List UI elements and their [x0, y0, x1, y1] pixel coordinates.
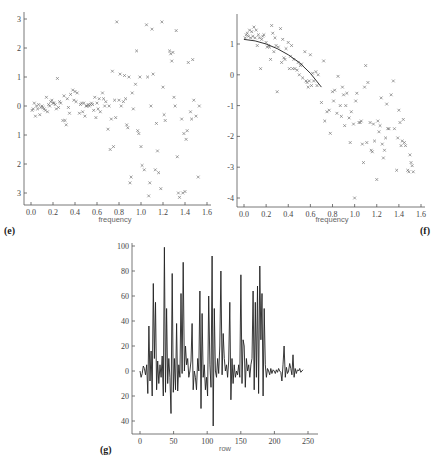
scatter-point — [274, 36, 277, 39]
scatter-point — [390, 93, 393, 96]
x-tick-label: 200 — [268, 437, 280, 446]
scatter-point — [103, 105, 106, 108]
axes-e: 32101230.00.20.40.60.81.01.21.41.6 — [17, 12, 212, 217]
scatter-point — [298, 73, 301, 76]
x-tick-label: 1.4 — [180, 208, 190, 217]
scatter-point — [317, 73, 320, 76]
scatter-point — [99, 110, 102, 113]
scatter-point — [336, 112, 339, 115]
scatter-point — [373, 140, 376, 143]
scatter-point — [384, 137, 387, 140]
scatter-point — [355, 92, 358, 95]
scatter-point — [104, 100, 107, 103]
scatter-point — [156, 150, 159, 153]
scatter-point — [263, 33, 266, 36]
y-tick-label: 20 — [121, 392, 129, 401]
scatter-point — [81, 110, 84, 113]
scatter-point — [323, 120, 326, 123]
scatter-point — [122, 100, 125, 103]
x-tick-label: 1.2 — [372, 210, 382, 219]
scatter-point — [343, 124, 346, 127]
scatter-point — [191, 58, 194, 61]
scatter-point — [363, 86, 366, 89]
scatter-point — [185, 138, 188, 141]
scatter-point — [126, 126, 129, 129]
scatter-point — [114, 116, 117, 119]
scatter-point — [354, 100, 357, 103]
scatter-point — [379, 124, 382, 127]
scatter-point — [301, 76, 304, 79]
y-tick-label: -1 — [227, 102, 234, 111]
scatter-point — [383, 149, 386, 152]
scatter-point — [332, 100, 335, 103]
scatter-point — [124, 97, 127, 100]
scatter-point — [353, 197, 356, 200]
scatter-point — [66, 97, 69, 100]
scatter-point — [136, 129, 139, 132]
scatter-panel-e: 32101230.00.20.40.60.81.01.21.41.6 frequ… — [4, 12, 212, 237]
scatter-point — [315, 70, 318, 73]
scatter-point — [270, 24, 273, 27]
scatter-point — [198, 105, 201, 108]
axes-f: 10-1-2-3-40.00.20.40.60.81.01.21.41.6 — [227, 14, 426, 219]
scatter-point — [397, 109, 400, 112]
scatter-point — [180, 118, 183, 121]
panel-label-g: (g) — [100, 444, 112, 456]
scatter-point — [139, 76, 142, 79]
scatter-point — [147, 195, 150, 198]
scatter-point — [101, 92, 104, 95]
scatter-point — [279, 27, 282, 30]
scatter-point — [381, 143, 384, 146]
scatter-point — [102, 97, 105, 100]
panel-label-e: (e) — [4, 225, 15, 237]
scatter-point — [33, 102, 36, 105]
scatter-point — [339, 104, 342, 107]
x-tick-label: 1.6 — [416, 210, 426, 219]
y-tick-label: 2 — [17, 44, 21, 53]
scatter-point — [95, 116, 98, 119]
scatter-point — [341, 86, 344, 89]
y-tick-label: 80 — [121, 267, 129, 276]
scatter-point — [151, 28, 154, 31]
scatter-point — [303, 50, 306, 53]
scatter-point — [320, 101, 323, 104]
scatter-point — [412, 170, 415, 173]
scatter-point — [131, 92, 134, 95]
scatter-point — [393, 127, 396, 130]
figure-canvas: 32101230.00.20.40.60.81.01.21.41.6 frequ… — [0, 0, 439, 469]
x-tick-label: 0 — [138, 437, 142, 446]
scatter-point — [281, 38, 284, 41]
y-tick-label: 1 — [17, 131, 21, 140]
x-tick-label: 0.2 — [261, 210, 271, 219]
scatter-point — [143, 168, 146, 171]
scatter-point — [307, 86, 310, 89]
x-tick-label: 0.6 — [305, 210, 315, 219]
x-tick-label: 1.0 — [136, 208, 146, 217]
y-tick-label: 40 — [121, 317, 129, 326]
scatter-point — [367, 81, 370, 84]
scatter-point — [146, 76, 149, 79]
scatter-point — [154, 168, 157, 171]
scatter-point — [348, 117, 351, 120]
scatter-point — [352, 123, 355, 126]
scatter-point — [189, 110, 192, 113]
scatter-point — [155, 122, 158, 125]
scatter-point — [56, 77, 59, 80]
scatter-point — [148, 181, 151, 184]
scatter-point — [382, 157, 385, 160]
y-tick-label: 1 — [230, 40, 234, 49]
scatter-point — [134, 83, 137, 86]
scatter-point — [91, 103, 94, 106]
scatter-point — [150, 105, 153, 108]
y-tick-label: 60 — [121, 292, 129, 301]
scatter-point — [285, 47, 288, 50]
scatter-point — [256, 44, 259, 47]
scatter-point — [108, 105, 111, 108]
scatter-point — [63, 94, 66, 97]
y-tick-label: 3 — [17, 189, 21, 198]
scatter-point — [64, 119, 67, 122]
scatter-point — [411, 164, 414, 167]
scatter-point — [329, 132, 332, 135]
scatter-point — [157, 171, 160, 174]
x-tick-label: 1.6 — [202, 208, 212, 217]
